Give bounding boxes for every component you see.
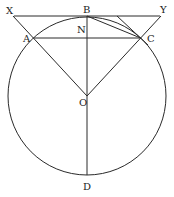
line-xo (13, 16, 87, 96)
geometry-diagram: X B Y A N C O D (0, 0, 174, 197)
label-o: O (79, 97, 87, 108)
label-y: Y (159, 4, 167, 15)
label-b: B (83, 4, 90, 15)
line-yo (87, 16, 161, 96)
label-x: X (6, 5, 14, 16)
label-n: N (77, 24, 86, 35)
chord-bc (87, 16, 141, 38)
label-a: A (22, 33, 31, 44)
label-c: C (147, 33, 155, 44)
label-d: D (83, 181, 91, 192)
